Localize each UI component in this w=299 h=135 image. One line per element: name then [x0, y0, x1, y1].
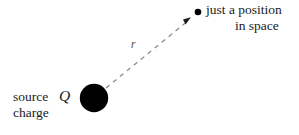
- field-point-label-line2: in space: [206, 18, 282, 34]
- field-point-dot: [195, 9, 202, 16]
- distance-symbol-r: r: [131, 38, 135, 52]
- source-charge-label: source charge: [13, 89, 49, 121]
- charge-symbol-Q: Q: [59, 87, 70, 105]
- physics-diagram-canvas: just a position in space source charge Q…: [0, 0, 299, 135]
- source-charge-label-line2: charge: [13, 105, 49, 121]
- source-charge-label-line1: source: [13, 89, 49, 105]
- field-point-label: just a position in space: [206, 2, 282, 34]
- separation-vector-line: [106, 22, 187, 88]
- field-point-label-line1: just a position: [206, 2, 282, 18]
- source-charge-dot: [80, 84, 108, 112]
